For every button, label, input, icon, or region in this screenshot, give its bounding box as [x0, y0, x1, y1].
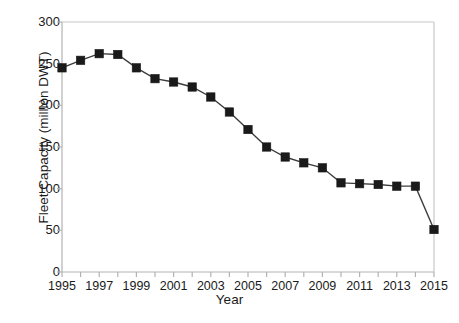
data-point-marker	[95, 49, 103, 57]
x-axis-ticks	[62, 272, 434, 277]
data-point-markers	[58, 49, 438, 233]
data-point-marker	[188, 83, 196, 91]
data-point-marker	[225, 108, 233, 116]
data-point-marker	[132, 64, 140, 72]
data-point-marker	[430, 225, 438, 233]
data-point-marker	[114, 50, 122, 58]
data-point-marker	[318, 164, 326, 172]
data-point-marker	[76, 56, 84, 64]
data-point-marker	[169, 78, 177, 86]
data-point-marker	[244, 125, 252, 133]
data-point-marker	[151, 74, 159, 82]
data-point-marker	[58, 64, 66, 72]
data-point-marker	[355, 179, 363, 187]
data-point-marker	[337, 179, 345, 187]
data-point-marker	[411, 182, 419, 190]
y-axis-ticks	[57, 22, 62, 272]
chart-container: Fleet Capacity (million DWT) Year 050100…	[0, 0, 459, 323]
data-point-marker	[374, 180, 382, 188]
plot-frame	[62, 22, 434, 272]
data-line-series	[62, 54, 434, 230]
data-point-marker	[300, 159, 308, 167]
plot-area	[0, 0, 459, 323]
data-point-marker	[262, 143, 270, 151]
data-point-marker	[207, 93, 215, 101]
data-point-marker	[393, 182, 401, 190]
data-point-marker	[281, 153, 289, 161]
